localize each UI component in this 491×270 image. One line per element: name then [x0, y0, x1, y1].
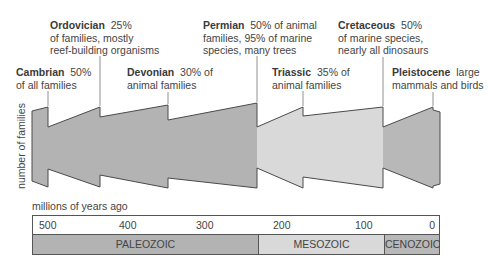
tick-0: 0	[429, 219, 435, 231]
tick-200: 200	[273, 219, 291, 231]
triassic-label: Triassic 35% of animal families	[272, 66, 350, 91]
era-paleozoic: PALEOZOIC	[33, 235, 259, 254]
tick-400: 400	[119, 219, 137, 231]
permian-label: Permian 50% of animal families, 95% of m…	[203, 19, 317, 57]
tick-100: 100	[355, 219, 373, 231]
era-row: PALEOZOIC MESOZOIC CENOZOIC	[33, 235, 439, 254]
cretaceous-label: Cretaceous 50% of marine species, nearly…	[338, 19, 428, 57]
mesozoic-shape	[257, 103, 383, 188]
era-cenozoic: CENOZOIC	[385, 235, 439, 254]
y-axis-label: number of families	[15, 91, 27, 201]
timeline: 500 400 300 200 100 0 PALEOZOIC MESOZOIC…	[32, 215, 440, 255]
ordovician-label: Ordovician 25% of families, mostly reef-…	[50, 19, 159, 57]
pleistocene-label: Pleistocene large mammals and birds	[392, 66, 484, 91]
tick-300: 300	[196, 219, 214, 231]
cambrian-label: Cambrian 50% of all families	[16, 66, 91, 91]
devonian-label: Devonian 30% of animal families	[127, 66, 213, 91]
tick-row: 500 400 300 200 100 0	[33, 216, 439, 235]
cenozoic-shape	[383, 107, 440, 188]
era-mesozoic: MESOZOIC	[259, 235, 385, 254]
tick-500: 500	[39, 219, 57, 231]
x-axis-title: millions of years ago	[32, 200, 128, 212]
